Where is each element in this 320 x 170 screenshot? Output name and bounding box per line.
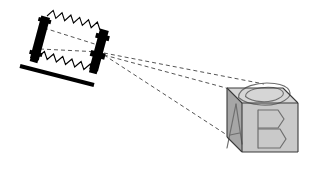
optical-projection-diagram (0, 0, 320, 170)
labeled-cube (227, 83, 298, 152)
figure-canvas (0, 0, 320, 170)
